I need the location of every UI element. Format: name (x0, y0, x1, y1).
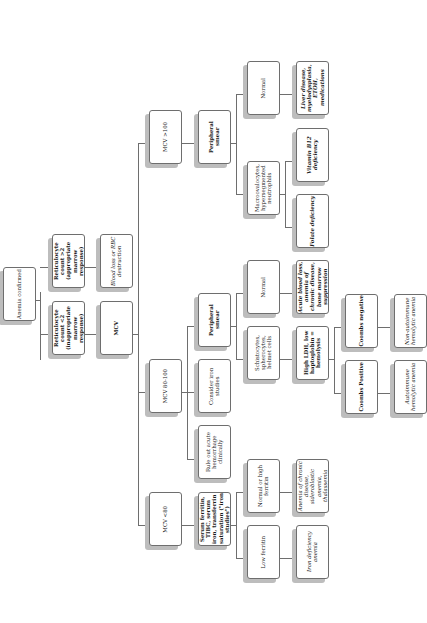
node-label: Coombs Positive (358, 362, 364, 412)
node-retic-high: Reticulocyte count >2 (appropriate marro… (52, 234, 85, 288)
node-label: Low ferritin (260, 536, 266, 569)
node-label: Normal or high ferritin (257, 460, 269, 512)
node-coombs-negative: Coombs negative (345, 294, 378, 348)
node-low-ferritin: Low ferritin (247, 525, 280, 579)
node-b12-deficiency: Vitamin B12 deficiency (296, 128, 329, 182)
node-label: Reticulocyte count >2 (appropriate marro… (53, 235, 84, 287)
node-coombs-positive: Coombs Positive (345, 360, 378, 414)
node-mcv: MCV (100, 301, 133, 355)
connector (378, 393, 394, 394)
node-label: Folate deficiency (309, 196, 315, 247)
node-consider-iron: Consider iron studies (198, 359, 231, 413)
node-label: Peripheral smear (208, 111, 220, 163)
node-rule-out-hemorrhage: Rule out acute hemorrhage clinically (198, 425, 231, 479)
node-blood-loss: Blood loss or RBC destruction (100, 234, 133, 288)
node-label: High LDH, low haptoglobin = hemolysis (303, 327, 322, 379)
connector (285, 227, 296, 228)
connector (236, 558, 247, 559)
node-label: Vitamin B12 deficiency (306, 129, 318, 181)
connector (85, 334, 100, 335)
node-label: Coombs negative (358, 295, 364, 347)
connector (280, 293, 296, 294)
node-autoimmune: Autoimmune hemolytic anemia (394, 360, 427, 414)
node-anemia-chronic-disease: Anemia of chronic disease, sideroblastic… (296, 459, 329, 513)
connector (334, 327, 335, 393)
node-smear-macro: Peripheral smear (198, 110, 231, 164)
connector (187, 326, 198, 327)
connector (236, 194, 247, 195)
node-label: Peripheral smear (208, 294, 220, 346)
connector (85, 267, 100, 268)
connector (187, 459, 198, 460)
connector (236, 359, 247, 360)
connector (40, 292, 41, 360)
connector (285, 161, 286, 227)
node-label: Iron deficiency anemia (306, 526, 318, 578)
node-label: Schistocytes, spherocytes, helmet cells (254, 327, 273, 379)
node-label: MCV (113, 321, 119, 335)
node-liver-disease: Liver disease, myelodysplasia, ETOH, med… (296, 61, 329, 115)
connector (236, 94, 237, 194)
node-label: Autoimmune hemolytic anemia (404, 361, 416, 413)
node-anemia-confirmed: Anemia confirmed (3, 267, 36, 321)
node-label: Normal (260, 78, 266, 99)
connector (187, 392, 198, 393)
connector (36, 300, 40, 301)
connector (378, 327, 394, 328)
connector (40, 267, 52, 268)
node-label: Consider iron studies (208, 360, 220, 412)
connector (182, 143, 198, 144)
node-label: Liver disease, myelodysplasia, ETOH, med… (300, 62, 325, 114)
connector (138, 525, 149, 526)
connector (236, 492, 237, 558)
node-label: Normal (260, 277, 266, 298)
node-hemolysis: High LDH, low haptoglobin = hemolysis (296, 326, 329, 380)
connector (334, 393, 345, 394)
node-macro-cells: Macroovalocytes, hypersegmented neutroph… (247, 161, 280, 215)
node-label: Macroovalocytes, hypersegmented neutroph… (254, 162, 273, 214)
node-mcv-lt80: MCV <80 (149, 492, 182, 546)
node-mcv-80-100: MCV 80-100 (149, 359, 182, 413)
node-label: Non-autoimmune hemolytic anemia (404, 295, 416, 347)
node-label: Rule out acute hemorrhage clinically (205, 426, 224, 478)
node-mcv-gt100: MCV >100 (149, 110, 182, 164)
node-label: MCV >100 (162, 122, 168, 152)
connector (236, 293, 237, 359)
connector (280, 94, 296, 95)
node-smear-normo: Peripheral smear (198, 293, 231, 347)
node-acute-blood-loss: Acute blood loss, anemia of chronic dise… (296, 260, 329, 314)
node-retic-low: Reticulocyte count <2 (inappropriate mar… (52, 301, 85, 355)
connector (138, 392, 149, 393)
node-label: MCV 80-100 (162, 369, 168, 403)
connector (138, 143, 139, 525)
node-folate-deficiency: Folate deficiency (296, 194, 329, 248)
node-label: Acute blood loss, anemia of chronic dise… (297, 261, 328, 313)
connector (236, 492, 247, 493)
connector (280, 359, 296, 360)
node-normo-normal: Normal (247, 260, 280, 314)
node-iron-studies: Serum ferritin, TIBC, serum iron, transf… (198, 492, 231, 546)
node-macro-normal: Normal (247, 61, 280, 115)
node-iron-deficiency-anemia: Iron deficiency anemia (296, 525, 329, 579)
node-label: Serum ferritin, TIBC, serum iron, transf… (199, 493, 230, 545)
connector (285, 161, 296, 162)
connector (182, 525, 198, 526)
connector (280, 492, 296, 493)
node-label: Anemia of chronic disease, sideroblastic… (297, 460, 328, 512)
node-label: MCV <80 (162, 506, 168, 533)
connector (138, 143, 149, 144)
node-label: Blood loss or RBC destruction (110, 235, 122, 287)
node-schistocytes: Schistocytes, spherocytes, helmet cells (247, 326, 280, 380)
connector (334, 327, 345, 328)
connector (236, 293, 247, 294)
node-label: Reticulocyte count <2 (inappropriate mar… (53, 302, 84, 354)
node-normal-high-ferritin: Normal or high ferritin (247, 459, 280, 513)
node-non-autoimmune: Non-autoimmune hemolytic anemia (394, 294, 427, 348)
connector (236, 94, 247, 95)
connector (280, 558, 296, 559)
node-label: Anemia confirmed (16, 269, 22, 319)
connector (40, 334, 52, 335)
